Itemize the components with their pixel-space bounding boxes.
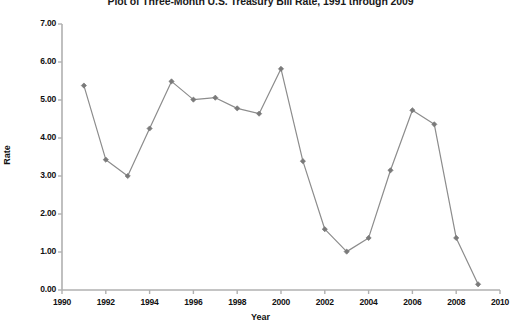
x-axis-tick-label: 1992	[86, 297, 126, 307]
x-axis-tick-label: 1996	[173, 297, 213, 307]
x-axis-tick-label: 2002	[305, 297, 345, 307]
chart-axes	[62, 24, 500, 290]
chart-container: Plot of Three-Month U.S. Treasury Bill R…	[0, 0, 521, 334]
y-axis-tick-label: 4.00	[22, 132, 56, 142]
chart-tick-marks	[58, 24, 500, 294]
x-axis-title: Year	[0, 312, 521, 322]
x-axis-tick-label: 1998	[217, 297, 257, 307]
y-axis-tick-label: 3.00	[22, 170, 56, 180]
y-axis-title: Rate	[2, 135, 12, 175]
y-axis-tick-label: 7.00	[22, 18, 56, 28]
data-series-line	[84, 69, 478, 284]
x-axis-tick-label: 2006	[392, 297, 432, 307]
x-axis-tick-label: 2004	[349, 297, 389, 307]
chart-plot-area	[0, 0, 521, 334]
x-axis-tick-label: 1990	[42, 297, 82, 307]
y-axis-tick-label: 6.00	[22, 56, 56, 66]
x-axis-tick-label: 2008	[436, 297, 476, 307]
x-axis-tick-label: 1994	[130, 297, 170, 307]
x-axis-tick-label: 2000	[261, 297, 301, 307]
data-point-markers	[81, 66, 480, 287]
x-axis-tick-label: 2010	[480, 297, 520, 307]
y-axis-tick-label: 2.00	[22, 208, 56, 218]
y-axis-tick-label: 1.00	[22, 246, 56, 256]
y-axis-tick-label: 0.00	[22, 284, 56, 294]
y-axis-tick-label: 5.00	[22, 94, 56, 104]
